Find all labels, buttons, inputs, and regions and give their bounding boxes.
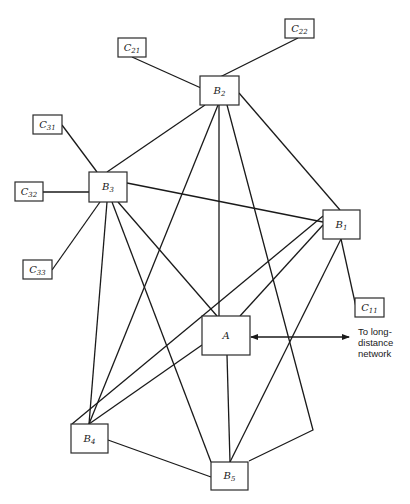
- node-b4: B4: [71, 424, 108, 453]
- node-b3: B3: [89, 172, 127, 202]
- node-c33: C33: [23, 260, 52, 279]
- edge-b3-a: [118, 202, 217, 316]
- node-c32: C32: [15, 182, 43, 201]
- node-c22: C22: [285, 19, 314, 38]
- edge-b1-a: [240, 225, 323, 316]
- edge-a-b4: [89, 345, 202, 424]
- node-c11: C11: [355, 298, 384, 317]
- network-diagram: C21C22B2C31C32B3C33B1C11AB4B5 To long- d…: [0, 0, 410, 504]
- node-a: A: [202, 316, 250, 355]
- edge-b3-b4: [89, 202, 107, 424]
- edge-a-b5: [227, 355, 230, 462]
- edge-c33-b3: [52, 202, 100, 270]
- node-b2: B2: [200, 76, 239, 105]
- nodes: C21C22B2C31C32B3C33B1C11AB4B5: [15, 19, 384, 490]
- edge-b2-b1: [239, 93, 340, 210]
- edge-b3-b1: [127, 183, 323, 222]
- node-c21: C21: [118, 38, 146, 57]
- long-distance-network-label: To long- distance network: [358, 326, 396, 359]
- edge-b2-b4: [89, 105, 218, 424]
- edge-b4-b5: [108, 440, 211, 477]
- edge-c21-b2: [132, 57, 201, 88]
- edge-c31-b3: [62, 125, 97, 172]
- node-c31: C31: [33, 115, 62, 134]
- edge-b1-b4: [72, 216, 323, 424]
- node-b1: B1: [323, 210, 360, 239]
- node-label: A: [221, 330, 229, 341]
- edge-c11-b1: [341, 239, 356, 307]
- edge-c22-b2: [220, 38, 298, 77]
- edge-b2-b3: [107, 105, 205, 172]
- node-b5: B5: [211, 462, 248, 490]
